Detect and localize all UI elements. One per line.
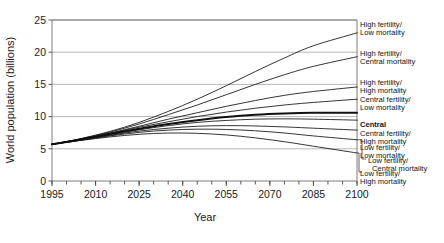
y-tick-label-20: 20 (34, 46, 46, 58)
y-tick-label-0: 0 (40, 175, 46, 187)
x-tick-label-2025: 2025 (127, 188, 151, 200)
legend-label-line2-8: High mortality (360, 177, 407, 186)
legend-entry-3: Central fertility/Low mortality (360, 95, 412, 112)
x-tick-label-2070: 2070 (258, 188, 282, 200)
population-projection-chart: 0510152025 19952010202520402055207020852… (0, 0, 444, 243)
legend-label-line2-1: Central mortality (360, 57, 415, 66)
legend-label-line2-2: High mortality (360, 86, 407, 95)
y-tick-label-25: 25 (34, 14, 46, 26)
legend-label-line2-3: Low mortality (360, 103, 405, 112)
x-tick-label-2040: 2040 (171, 188, 195, 200)
x-tick-label-2085: 2085 (302, 188, 326, 200)
y-tick-label-5: 5 (40, 143, 46, 155)
legend-entry-8: Low fertility/High mortality (360, 169, 407, 186)
x-axis-title: Year (194, 211, 217, 223)
x-tick-label-1995: 1995 (40, 188, 64, 200)
legend-entry-0: High fertility/Low mortality (360, 20, 405, 37)
legend-label-line2-0: Low mortality (360, 28, 405, 37)
y-tick-label-10: 10 (34, 110, 46, 122)
x-tick-label-2010: 2010 (84, 188, 108, 200)
y-axis-title: World population (billions) (4, 37, 16, 163)
x-tick-label-2100: 2100 (345, 188, 369, 200)
x-tick-label-2055: 2055 (215, 188, 239, 200)
chart-svg: 0510152025 19952010202520402055207020852… (0, 0, 444, 243)
legend-label-line1-4: Central (360, 120, 386, 129)
legend-entry-4: Central (360, 120, 386, 129)
y-tick-label-15: 15 (34, 78, 46, 90)
legend-entry-2: High fertility/High mortality (360, 78, 407, 95)
